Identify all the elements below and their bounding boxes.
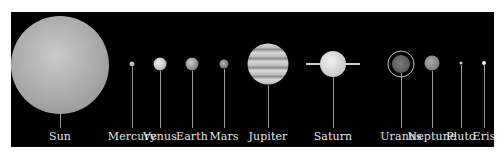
saturn-planet [320,51,346,77]
eris-stem [484,65,485,128]
uranus-stem [401,73,402,128]
mars-stem [224,69,225,129]
eris-planet [482,61,486,65]
jupiter-label: Jupiter [249,130,288,143]
jupiter-stem [268,85,269,129]
venus-label: Venus [143,130,177,143]
neptune-planet [425,56,440,71]
uranus-planet [392,55,410,73]
pluto-planet [460,62,463,65]
mars-label: Mars [209,130,238,143]
earth-planet [186,58,199,71]
mercury-planet [130,62,135,67]
sun-stem [60,114,61,128]
pluto-stem [461,65,462,129]
solar-system-panel: SunMercuryVenusEarthMarsJupiterSaturnUra… [11,12,494,147]
saturn-label: Saturn [314,130,353,143]
earth-stem [192,71,193,129]
earth-label: Earth [176,130,208,143]
venus-stem [160,71,161,129]
neptune-stem [432,71,433,129]
mars-planet [220,60,229,69]
saturn-stem [333,77,334,128]
jupiter-planet [248,44,289,85]
sun-label: Sun [49,130,71,143]
sun-planet [11,16,109,114]
venus-planet [154,58,167,71]
eris-label: Eris [473,130,494,143]
mercury-stem [132,67,133,129]
pluto-label: Pluto [446,130,476,143]
